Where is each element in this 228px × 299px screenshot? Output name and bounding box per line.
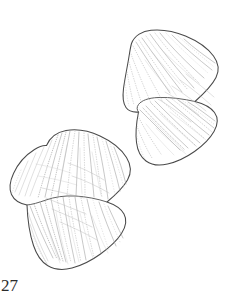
line-drawing-illustration: [0, 0, 228, 299]
figure-number-label: 27: [1, 276, 18, 296]
figure-plate: 27: [0, 0, 228, 299]
